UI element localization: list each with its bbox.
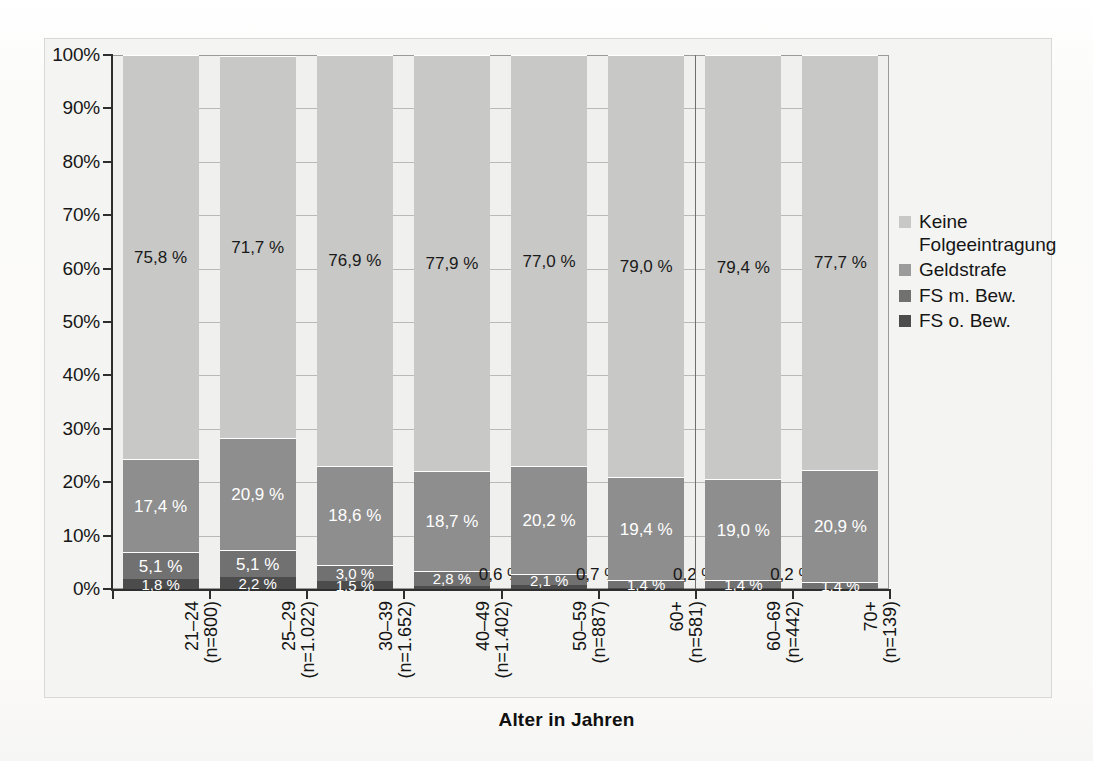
x-axis-tick	[501, 589, 503, 599]
bar-segment[interactable]: 77,9 %	[414, 55, 490, 471]
group-separator-line	[695, 55, 696, 589]
chart-legend: Keine FolgeeintragungGeldstrafeFS m. Bew…	[899, 210, 1084, 334]
stacked-bar[interactable]: 2,1 %20,2 %77,0 %	[511, 55, 587, 589]
bar-segment-value-label: 18,7 %	[425, 513, 478, 530]
bar-segment[interactable]: 1,4 %	[802, 582, 878, 589]
bar-segment-value-label: 19,4 %	[620, 521, 673, 538]
bar-segment[interactable]: 2,2 %	[220, 577, 296, 589]
x-axis-tick	[695, 589, 697, 599]
stacked-bar[interactable]: 1,4 %19,4 %79,0 %	[608, 55, 684, 589]
bar-segment-value-label: 5,1 %	[236, 556, 279, 573]
bar-segment[interactable]: 20,2 %	[511, 466, 587, 574]
legend-item-label: FS m. Bew.	[919, 284, 1016, 307]
stacked-bar[interactable]: 1,5 %3,0 %18,6 %76,9 %	[317, 55, 393, 589]
bar-segment-value-label: 3,0 %	[336, 566, 374, 581]
bar-segment-value-label: 2,1 %	[530, 573, 568, 588]
stacked-bar[interactable]: 2,8 %18,7 %77,9 %	[414, 55, 490, 589]
bar-segment-value-label: 71,7 %	[231, 239, 284, 256]
x-axis-tick	[209, 589, 211, 599]
x-axis-tick	[598, 589, 600, 599]
x-axis-tick	[306, 589, 308, 599]
x-axis-tick	[112, 589, 114, 599]
legend-item[interactable]: FS m. Bew.	[899, 284, 1084, 307]
x-axis-title: Alter in Jahren	[0, 709, 1093, 731]
bar-segment[interactable]: 18,7 %	[414, 471, 490, 571]
bar-segment-value-label: 17,4 %	[134, 498, 187, 515]
bar-segment-value-label: 76,9 %	[328, 252, 381, 269]
bar-segment[interactable]: 5,1 %	[220, 550, 296, 577]
legend-item-label: FS o. Bew.	[919, 309, 1011, 332]
bar-segment[interactable]: 76,9 %	[317, 55, 393, 466]
legend-item[interactable]: FS o. Bew.	[899, 309, 1084, 332]
x-axis-tick	[889, 589, 891, 599]
legend-color-swatch-icon	[899, 315, 911, 327]
legend-item[interactable]: Keine Folgeeintragung	[899, 210, 1084, 256]
bar-segment[interactable]: 77,7 %	[802, 55, 878, 470]
bar-segment[interactable]: 1,5 %	[317, 581, 393, 589]
x-axis-tick	[403, 589, 405, 599]
bar-segment[interactable]: 75,8 %	[123, 55, 199, 460]
bar-segment-value-label: 77,0 %	[523, 253, 576, 270]
legend-item-label: Keine Folgeeintragung	[919, 210, 1084, 256]
bar-segment-value-label: 2,8 %	[433, 571, 471, 586]
bar-segment-value-label: 5,1 %	[139, 558, 182, 575]
bar-segment[interactable]: 20,9 %	[802, 470, 878, 582]
x-axis-tick	[792, 589, 794, 599]
stacked-bar[interactable]: 1,8 %5,1 %17,4 %75,8 %	[123, 55, 199, 590]
bar-segment-value-label: 2,2 %	[239, 576, 277, 591]
bar-segment[interactable]: 3,0 %	[317, 565, 393, 581]
bar-segment-value-label: 19,0 %	[717, 522, 770, 539]
stacked-bar[interactable]: 1,4 %19,0 %79,4 %	[705, 55, 781, 589]
legend-color-swatch-icon	[899, 216, 911, 228]
bar-segment-value-label: 20,9 %	[814, 518, 867, 535]
bar-segment-value-label: 79,0 %	[620, 258, 673, 275]
bar-segment-value-label: 20,9 %	[231, 486, 284, 503]
bar-segment-value-label: 77,7 %	[814, 254, 867, 271]
bar-segment[interactable]: 79,0 %	[608, 55, 684, 477]
legend-item-label: Geldstrafe	[919, 258, 1007, 281]
bar-segment-value-label: 75,8 %	[134, 249, 187, 266]
bar-segment[interactable]: 79,4 %	[705, 55, 781, 479]
bar-segment[interactable]: 5,1 %	[123, 552, 199, 579]
bar-segment[interactable]: 71,7 %	[220, 56, 296, 439]
bar-segment-value-label: 77,9 %	[425, 255, 478, 272]
bar-segment-value-label: 79,4 %	[717, 259, 770, 276]
bar-segment[interactable]: 20,9 %	[220, 438, 296, 550]
bar-segment[interactable]: 77,0 %	[511, 55, 587, 466]
legend-color-swatch-icon	[899, 264, 911, 276]
stacked-bar[interactable]: 1,4 %20,9 %77,7 %	[802, 55, 878, 589]
bar-segment[interactable]: 18,6 %	[317, 466, 393, 565]
legend-color-swatch-icon	[899, 290, 911, 302]
legend-item[interactable]: Geldstrafe	[899, 258, 1084, 281]
bar-segment-value-label: 20,2 %	[523, 512, 576, 529]
stacked-bar-chart-figure: 0%10%20%30%40%50%60%70%80%90%100% 1,8 %5…	[0, 0, 1093, 761]
bar-segment-value-label: 18,6 %	[328, 507, 381, 524]
bar-segment[interactable]: 17,4 %	[123, 459, 199, 552]
stacked-bar[interactable]: 2,2 %5,1 %20,9 %71,7 %	[220, 56, 296, 589]
bar-segment[interactable]: 1,8 %	[123, 579, 199, 589]
bar-series-container: 1,8 %5,1 %17,4 %75,8 %2,2 %5,1 %20,9 %71…	[0, 0, 1093, 761]
